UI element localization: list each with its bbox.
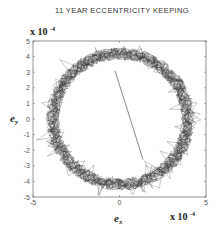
x-axis-label: ex [114, 212, 123, 226]
svg-text:-2: -2 [24, 147, 30, 154]
svg-text:-4: -4 [24, 178, 30, 185]
svg-text:-1: -1 [24, 131, 30, 138]
svg-text:1: 1 [26, 100, 30, 107]
trajectory [37, 46, 201, 196]
svg-text:0: 0 [26, 116, 30, 123]
svg-text:2: 2 [26, 84, 30, 91]
svg-text:4: 4 [26, 53, 30, 60]
x-multiplier: x 10 -4 [170, 211, 195, 222]
svg-text:5: 5 [204, 199, 208, 206]
y-axis-label: ey [10, 112, 19, 126]
y-multiplier: x 10 -4 [30, 26, 55, 37]
svg-text:5: 5 [26, 38, 30, 45]
svg-text:0: 0 [118, 199, 122, 206]
svg-text:-5: -5 [30, 199, 36, 206]
transfer-line [115, 71, 143, 160]
svg-text:-3: -3 [24, 162, 30, 169]
plot-frame [33, 41, 206, 197]
svg-text:3: 3 [26, 69, 30, 76]
eccentricity-plot: x 10 -4 543210-1-2-3-4-5 -505 ey ex x 10… [0, 0, 220, 236]
